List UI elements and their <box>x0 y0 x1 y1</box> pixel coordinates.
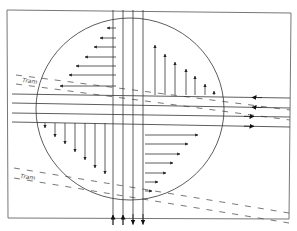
vertical-road-lanes <box>113 10 143 225</box>
tram-track-line <box>14 168 289 213</box>
horizontal-lane <box>12 103 290 108</box>
tram-track-line <box>16 84 290 120</box>
intersection-diagram: Tram Tram <box>0 0 297 231</box>
tram-track-line <box>16 75 290 110</box>
bottom-left-downward-arrows <box>45 123 105 174</box>
tram-label-upper: Tram <box>22 76 38 85</box>
intersection-circle <box>36 18 224 200</box>
top-right-upward-arrows <box>155 45 214 95</box>
bottom-right-rightward-arrows <box>145 135 198 191</box>
tram-track-line <box>14 178 289 223</box>
top-left-leftward-arrows <box>60 28 116 86</box>
horizontal-lane <box>12 94 290 98</box>
tram-label-lower: Tram <box>20 172 36 181</box>
horizontal-road-lanes <box>12 94 290 127</box>
circle-boundary <box>36 18 224 200</box>
